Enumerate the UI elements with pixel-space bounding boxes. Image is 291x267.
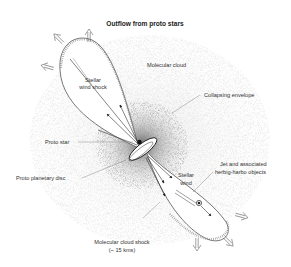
outflow-arrow-upleft-icon <box>51 31 66 46</box>
label-stellar-wind-shock-line1: Stellar <box>85 77 101 83</box>
label-molecular-cloud: Molecular cloud <box>147 62 186 68</box>
label-stellar-wind-line2: wind <box>179 180 192 186</box>
label-proto-star: Proto star <box>45 139 69 145</box>
label-collapsing-envelope: Collapsing envelope <box>204 92 254 98</box>
label-molecular-cloud-shock-line2: (~ 15 kms) <box>109 247 136 253</box>
outflow-arrow-left-icon <box>40 61 55 72</box>
label-molecular-cloud-shock-line1: Molecular cloud shock <box>94 239 150 245</box>
diagram-title: Outflow from proto stars <box>106 20 184 28</box>
label-jet-line1: Jet and associated <box>220 161 267 167</box>
label-proto-planetary-disc: Proto planetary disc <box>16 175 66 181</box>
label-stellar-wind-shock-line2: wind shock <box>78 84 107 90</box>
outflow-diagram: Outflow from proto stars <box>0 0 291 267</box>
label-jet-line2: herbig-harbo objects <box>215 169 266 175</box>
label-stellar-wind-line1: Stellar <box>178 172 194 178</box>
